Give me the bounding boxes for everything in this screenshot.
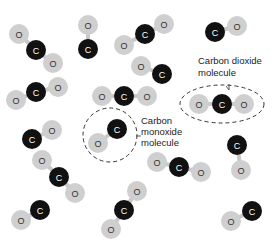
oxygen-atom: O: [191, 162, 211, 182]
oxygen-atom: O: [154, 14, 174, 34]
svg-text:O: O: [38, 156, 45, 166]
carbon-dioxide-label-line-1: Carbon dioxide: [198, 55, 262, 66]
svg-text:O: O: [143, 92, 150, 102]
svg-text:O: O: [195, 100, 202, 110]
svg-text:C: C: [142, 30, 149, 40]
carbon-dioxide-label: Carbon dioxide molecule: [198, 55, 265, 78]
svg-text:O: O: [84, 21, 91, 31]
svg-text:O: O: [237, 166, 244, 176]
carbon-atom: C: [30, 200, 50, 220]
oxygen-atom: O: [6, 90, 26, 110]
carbon-atom: C: [26, 40, 46, 60]
carbon-atom: C: [78, 39, 98, 59]
svg-text:O: O: [160, 20, 167, 30]
carbon-atom: C: [22, 129, 42, 149]
svg-text:O: O: [233, 22, 240, 32]
svg-text:C: C: [56, 173, 63, 183]
carbon-atom: C: [114, 200, 134, 220]
oxygen-atom: O: [65, 183, 85, 203]
carbon-atom: C: [26, 82, 46, 102]
svg-text:O: O: [15, 30, 22, 40]
svg-text:C: C: [159, 70, 166, 80]
svg-text:C: C: [33, 46, 40, 56]
carbon-monoxide-label-line-3: molecule: [141, 137, 179, 148]
diagram-canvas: OCOOCOCOCOOCOOCOCOOCOCOCOOCOOCOCOOCOCOCO…: [0, 0, 278, 247]
oxygen-atom: O: [11, 210, 31, 230]
carbon-atom: C: [49, 167, 69, 187]
svg-text:O: O: [197, 168, 204, 178]
oxygen-atom: O: [78, 15, 98, 35]
svg-text:O: O: [71, 189, 78, 199]
svg-text:C: C: [29, 135, 36, 145]
svg-text:O: O: [98, 92, 105, 102]
oxygen-atom: O: [92, 86, 112, 106]
oxygen-atom: O: [137, 86, 157, 106]
oxygen-atom: O: [231, 160, 251, 180]
oxygen-atom: O: [189, 94, 209, 114]
svg-text:C: C: [219, 100, 226, 110]
svg-text:C: C: [249, 207, 256, 217]
svg-text:O: O: [49, 59, 56, 69]
svg-text:C: C: [85, 45, 92, 55]
svg-text:O: O: [120, 41, 127, 51]
svg-text:O: O: [153, 158, 160, 168]
atoms-layer: OCOOCOCOCOOCOOCOCOOCOCOCOOCOOCOCOOCOCOCO: [6, 14, 262, 239]
carbon-atom: C: [135, 24, 155, 44]
svg-text:O: O: [54, 83, 61, 93]
oxygen-atom: O: [221, 211, 241, 231]
svg-text:C: C: [37, 206, 44, 216]
svg-text:C: C: [33, 88, 40, 98]
oxygen-atom: O: [42, 120, 62, 140]
carbon-atom: C: [242, 201, 262, 221]
oxygen-atom: O: [147, 152, 167, 172]
oxygen-atom: O: [131, 56, 151, 76]
svg-text:O: O: [17, 216, 24, 226]
svg-text:C: C: [121, 206, 128, 216]
svg-text:C: C: [212, 28, 219, 38]
svg-text:O: O: [137, 62, 144, 72]
oxygen-atom: O: [9, 24, 29, 44]
svg-text:C: C: [121, 92, 128, 102]
carbon-atom: C: [152, 64, 172, 84]
oxygen-atom: O: [127, 181, 147, 201]
carbon-atom: C: [114, 86, 134, 106]
svg-text:C: C: [176, 163, 183, 173]
svg-text:O: O: [133, 187, 140, 197]
oxygen-atom: O: [234, 94, 254, 114]
oxygen-atom: O: [101, 219, 121, 239]
carbon-monoxide-label: Carbon monoxide molecule: [141, 115, 185, 148]
svg-text:O: O: [240, 100, 247, 110]
carbon-atom: C: [169, 157, 189, 177]
oxygen-atom: O: [43, 53, 63, 73]
carbon-atom: C: [205, 22, 225, 42]
oxygen-atom: O: [88, 133, 108, 153]
carbon-atom: C: [107, 119, 127, 139]
carbon-monoxide-label-line-2: monoxide: [141, 126, 182, 137]
svg-text:O: O: [227, 217, 234, 227]
svg-text:O: O: [12, 96, 19, 106]
oxygen-atom: O: [48, 77, 68, 97]
molecule-diagram: OCOOCOCOCOOCOOCOCOOCOCOCOOCOOCOCOOCOCOCO…: [0, 0, 278, 247]
svg-text:O: O: [94, 139, 101, 149]
oxygen-atom: O: [32, 150, 52, 170]
svg-text:C: C: [114, 125, 121, 135]
carbon-atom: C: [227, 135, 247, 155]
carbon-monoxide-label-line-1: Carbon: [141, 115, 172, 126]
svg-text:C: C: [234, 141, 241, 151]
oxygen-atom: O: [227, 16, 247, 36]
svg-text:O: O: [107, 225, 114, 235]
carbon-atom: C: [212, 94, 232, 114]
svg-text:O: O: [48, 126, 55, 136]
oxygen-atom: O: [114, 35, 134, 55]
carbon-dioxide-label-line-2: molecule: [198, 67, 236, 78]
